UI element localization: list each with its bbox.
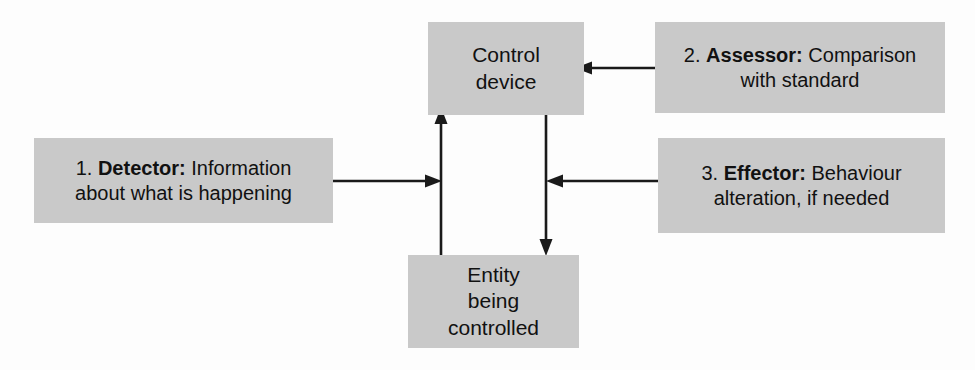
detector-term: Detector: [98,157,186,179]
detector-description-line-2: about what is happening [75,182,292,204]
node-assessor-annotation: 2. Assessor: Comparisonwith standard [655,22,945,113]
node-entity-being-controlled-label: Entitybeingcontrolled [408,262,579,340]
detector-description-line-1: Information [191,157,291,179]
diagram-canvas: Controldevice Entitybeingcontrolled 1. D… [0,0,975,370]
node-entity-being-controlled: Entitybeingcontrolled [408,255,579,348]
control-to-entity-arrow [540,115,553,256]
entity-to-control-arrow [435,107,448,255]
node-effector-label: 3. Effector: Behaviouralteration, if nee… [658,161,945,211]
entity-line-2: being [468,289,519,312]
node-detector-annotation: 1. Detector: Informationabout what is ha… [34,138,333,223]
node-detector-label: 1. Detector: Informationabout what is ha… [34,156,333,206]
detector-to-feedback-arrow [333,175,442,188]
control-device-line-2: device [476,70,537,93]
entity-line-1: Entity [467,263,520,286]
effector-number: 3. [701,162,718,184]
node-assessor-label: 2. Assessor: Comparisonwith standard [655,43,945,93]
assessor-description-line-1: Comparison [808,44,916,66]
assessor-description-line-2: with standard [741,69,860,91]
detector-number: 1. [76,157,93,179]
node-control-device: Controldevice [428,22,584,115]
node-effector-annotation: 3. Effector: Behaviouralteration, if nee… [658,138,945,233]
control-device-line-1: Control [472,43,540,66]
assessor-term: Assessor: [706,44,803,66]
effector-description-line-2: alteration, if needed [714,187,890,209]
effector-to-output-arrow [546,175,658,188]
node-control-device-label: Controldevice [428,42,584,94]
effector-term: Effector: [724,162,806,184]
assessor-to-control-arrow [575,62,655,75]
entity-line-3: controlled [448,316,539,339]
assessor-number: 2. [684,44,701,66]
effector-description-line-1: Behaviour [811,162,901,184]
